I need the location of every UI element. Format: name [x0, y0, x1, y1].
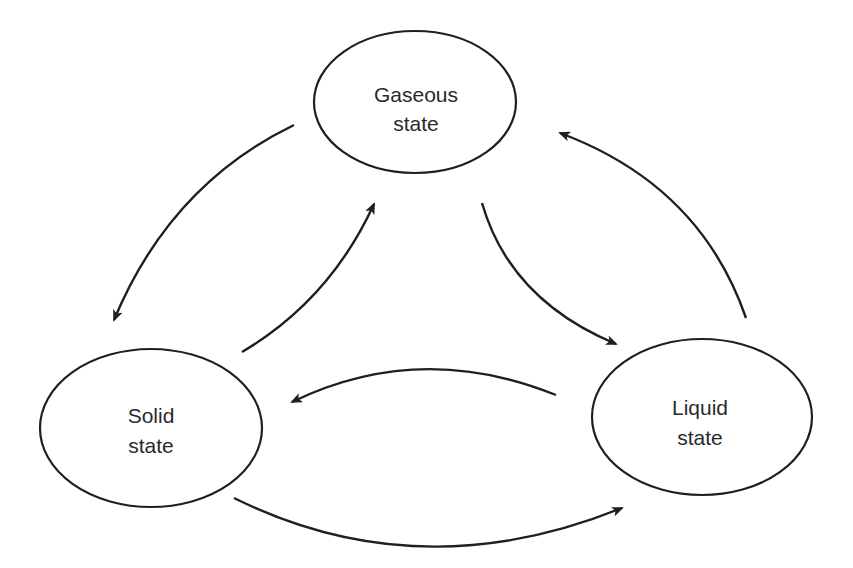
solid-label-line1: Solid	[128, 404, 175, 427]
liquid-label-line1: Liquid	[672, 396, 728, 419]
solid-ellipse	[40, 349, 262, 507]
arrow-liquid-to-solid	[292, 369, 556, 402]
node-solid-state: Solid state	[40, 349, 262, 507]
arrow-solid-to-liquid	[234, 498, 622, 547]
phase-transition-diagram: Gaseous state Solid state Liquid state	[0, 0, 853, 568]
arrow-gaseous-to-solid	[114, 125, 294, 320]
node-liquid-state: Liquid state	[592, 339, 812, 495]
arrow-liquid-to-gaseous	[560, 133, 746, 318]
arrow-solid-to-gaseous	[242, 204, 374, 352]
liquid-label-line2: state	[677, 426, 723, 449]
solid-label-line2: state	[128, 434, 174, 457]
arrow-gaseous-to-liquid	[482, 203, 616, 344]
gaseous-label-line2: state	[393, 112, 439, 135]
node-gaseous-state: Gaseous state	[314, 31, 516, 173]
gaseous-label-line1: Gaseous	[374, 83, 458, 106]
